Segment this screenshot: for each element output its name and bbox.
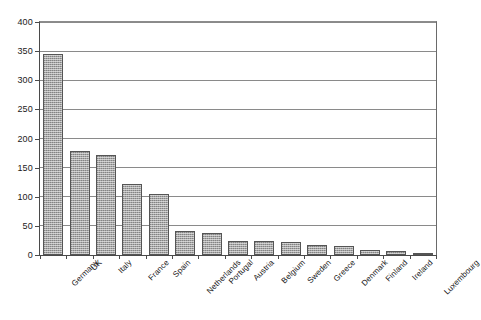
y-tick-label: 150 [17,163,33,173]
x-tick-label: Italy [117,258,134,275]
bar[interactable] [202,233,222,255]
bar-slot [225,22,251,255]
x-tick-label: Belgium [279,258,306,285]
x-tick-label: Austria [252,258,276,282]
bar-series [40,22,436,255]
x-tick-label: Finland [384,258,409,283]
bar[interactable] [70,151,90,255]
bar-slot [146,22,172,255]
bar[interactable] [360,250,380,255]
bar[interactable] [254,241,274,255]
bar[interactable] [228,241,248,255]
x-tick-label: Ireland [410,258,434,282]
bar-slot [40,22,66,255]
x-tick-label: Greece [331,258,356,283]
bar-slot [410,22,436,255]
bar[interactable] [386,251,406,255]
bar-slot [198,22,224,255]
bar[interactable] [281,242,301,255]
x-tick-label: Sweden [306,258,333,285]
y-tick-label: 200 [17,134,33,144]
bar[interactable] [175,231,195,255]
bar-slot [66,22,92,255]
x-tick-mark [436,255,437,259]
bar-slot [304,22,330,255]
y-tick-label: 100 [17,192,33,202]
y-tick-label: 350 [17,46,33,56]
bar[interactable] [96,155,116,255]
bar-slot [93,22,119,255]
y-tick-label: 400 [17,17,33,27]
y-tick-label: 250 [17,104,33,114]
bar[interactable] [149,194,169,255]
bar[interactable] [334,246,354,255]
bar-slot [251,22,277,255]
bar[interactable] [307,245,327,255]
bar-slot [278,22,304,255]
bar-slot [383,22,409,255]
bar[interactable] [122,184,142,255]
x-tick-label: Denmark [360,258,390,288]
y-tick-label: 50 [23,221,33,231]
x-tick-label: France [146,258,170,282]
y-tick-label: 300 [17,75,33,85]
y-tick-label: 0 [28,250,33,260]
plot-area: 050100150200250300350400 [39,21,437,256]
bar[interactable] [413,253,433,255]
bar-slot [172,22,198,255]
x-axis-labels: GermanyUKItalyFranceSpainNetherlandsPort… [39,258,435,320]
bar-slot [119,22,145,255]
bar[interactable] [43,54,63,255]
bar-slot [357,22,383,255]
x-tick-label: Luxembourg [443,258,481,297]
bar-slot [330,22,356,255]
x-tick-label: Spain [171,258,192,279]
